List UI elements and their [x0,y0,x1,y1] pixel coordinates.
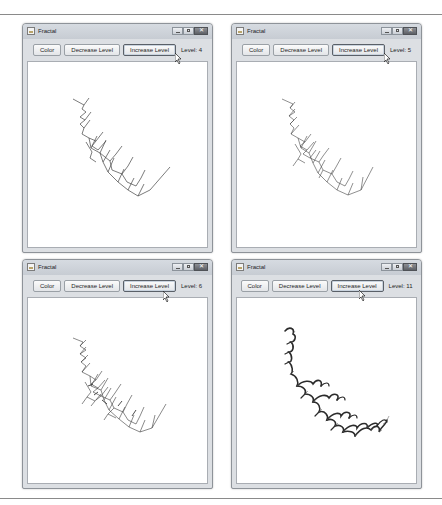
decrease-level-button[interactable]: Decrease Level [272,280,328,292]
fractal-window-level-6: Fractal Color Decrease Level Increase Le… [22,259,213,489]
color-button[interactable]: Color [242,44,270,56]
fractal-canvas [27,297,208,484]
level-label: Level: 4 [181,47,202,53]
title-bar[interactable]: Fractal [23,260,212,275]
increase-level-button[interactable]: Increase Level [123,44,176,56]
window-title: Fractal [247,262,265,272]
fractal-drawing [237,62,418,249]
minimize-icon[interactable] [172,27,183,35]
decrease-level-button[interactable]: Decrease Level [273,44,329,56]
decrease-level-button[interactable]: Decrease Level [64,280,120,292]
color-button[interactable]: Color [33,280,61,292]
fractal-canvas [236,297,417,484]
title-bar[interactable]: Fractal [23,24,212,39]
window-title: Fractal [38,262,56,272]
maximize-icon[interactable] [392,263,403,271]
java-cup-icon [236,263,244,271]
color-button[interactable]: Color [241,280,269,292]
fractal-canvas [236,61,417,248]
level-label: Level: 11 [389,283,413,289]
close-icon[interactable] [194,263,208,271]
java-cup-icon [27,263,35,271]
increase-level-button[interactable]: Increase Level [332,44,385,56]
top-divider [0,14,442,15]
level-label: Level: 6 [181,283,202,289]
maximize-icon[interactable] [183,27,194,35]
toolbar: Color Decrease Level Increase Level Leve… [26,276,209,296]
java-cup-icon [27,27,35,35]
window-title: Fractal [247,26,265,36]
fractal-drawing [28,62,209,249]
minimize-icon[interactable] [381,263,392,271]
mouse-pointer-icon [384,53,392,64]
decrease-level-button[interactable]: Decrease Level [64,44,120,56]
fractal-canvas [27,61,208,248]
maximize-icon[interactable] [392,27,403,35]
maximize-icon[interactable] [183,263,194,271]
java-cup-icon [236,27,244,35]
fractal-window-level-11: Fractal Color Decrease Level Increase Le… [231,259,422,489]
minimize-icon[interactable] [381,27,392,35]
close-icon[interactable] [403,263,417,271]
mouse-pointer-icon [359,290,367,301]
title-bar[interactable]: Fractal [232,260,421,275]
minimize-icon[interactable] [172,263,183,271]
mouse-pointer-icon [175,53,183,64]
toolbar: Color Decrease Level Increase Level Leve… [235,276,418,296]
window-title: Fractal [38,26,56,36]
bottom-divider [0,498,442,499]
fractal-window-level-4: Fractal Color Decrease Level Increase Le… [22,23,213,253]
increase-level-button[interactable]: Increase Level [331,280,384,292]
close-icon[interactable] [194,27,208,35]
fractal-drawing [237,298,418,485]
level-label: Level: 5 [390,47,411,53]
fractal-drawing [28,298,209,485]
color-button[interactable]: Color [33,44,61,56]
close-icon[interactable] [403,27,417,35]
mouse-pointer-icon [163,291,171,302]
fractal-window-level-5: Fractal Color Decrease Level Increase Le… [231,23,422,253]
title-bar[interactable]: Fractal [232,24,421,39]
